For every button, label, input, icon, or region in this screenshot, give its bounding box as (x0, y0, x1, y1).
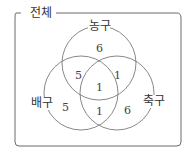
region-all-three: 1 (96, 81, 103, 94)
region-volleyball-only: 5 (62, 101, 69, 114)
set-circle-volleyball (44, 56, 118, 130)
universe-label: 전체 (30, 6, 52, 20)
region-basketball-only: 6 (96, 42, 103, 55)
region-soccer-only: 6 (124, 104, 131, 117)
set-circle-soccer (80, 56, 154, 130)
set-label-volleyball: 배구 (31, 96, 53, 110)
set-label-basketball: 농구 (89, 19, 111, 33)
venn-diagram: 전체 농구 배구 축구 6 5 1 1 5 1 6 (0, 0, 188, 159)
region-volleyball-soccer: 1 (96, 105, 103, 118)
set-label-soccer: 축구 (143, 94, 165, 108)
region-basketball-volleyball: 5 (75, 69, 82, 82)
region-basketball-soccer: 1 (114, 69, 121, 82)
